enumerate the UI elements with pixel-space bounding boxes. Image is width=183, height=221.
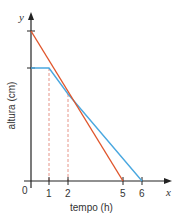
x-axis-variable: x bbox=[166, 186, 171, 198]
y-axis-arrow-icon bbox=[28, 12, 34, 20]
x-axis-arrow-icon bbox=[164, 178, 172, 184]
x-tick-label-6: 6 bbox=[139, 188, 145, 199]
x-tick-label-1: 1 bbox=[46, 188, 52, 199]
y-axis-title: altura (cm) bbox=[6, 82, 17, 130]
x-tick-label-5: 5 bbox=[120, 188, 126, 199]
x-axis-title: tempo (h) bbox=[70, 202, 113, 213]
series-blue bbox=[31, 68, 142, 181]
series-orange bbox=[31, 31, 123, 181]
x-tick-label-2: 2 bbox=[65, 188, 71, 199]
y-axis-variable: y bbox=[19, 11, 24, 23]
origin-label: 0 bbox=[22, 185, 28, 196]
